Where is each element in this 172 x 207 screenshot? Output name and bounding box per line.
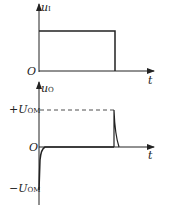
input-pulse bbox=[39, 31, 115, 71]
pos-level-label: +UOM bbox=[9, 104, 40, 115]
bottom-y-label: uO bbox=[41, 83, 54, 94]
positive-spike bbox=[114, 110, 119, 147]
neg-level-label: −UOM bbox=[9, 183, 40, 194]
bottom-origin-label: O bbox=[29, 142, 38, 153]
top-plot bbox=[39, 4, 154, 72]
top-origin-label: O bbox=[27, 66, 36, 77]
bottom-x-label: t bbox=[148, 150, 152, 161]
top-x-label: t bbox=[148, 75, 152, 86]
negative-spike bbox=[39, 147, 114, 190]
top-y-label: uI bbox=[41, 2, 51, 13]
bottom-plot bbox=[39, 82, 154, 205]
